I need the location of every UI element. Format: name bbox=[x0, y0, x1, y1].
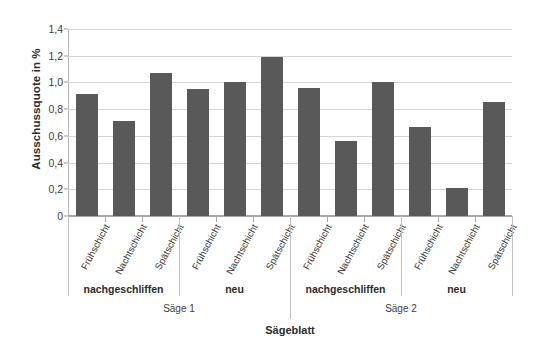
category-label: Frühschicht bbox=[411, 222, 444, 271]
category-label: Spätschicht bbox=[374, 222, 407, 272]
bar bbox=[372, 82, 394, 216]
bar-chart: Ausschussquote in % 1,41,21,00,80,60,40,… bbox=[0, 0, 543, 347]
category-label: Spätschicht bbox=[485, 222, 518, 272]
plot-area: 1,41,21,00,80,60,40,20 bbox=[68, 29, 512, 216]
category-label: Frühschicht bbox=[189, 222, 222, 271]
group-label-machine: Säge 2 bbox=[290, 303, 512, 314]
y-axis-title: Ausschussquote in % bbox=[30, 14, 42, 204]
category-label: Frühschicht bbox=[300, 222, 333, 271]
bars-layer bbox=[68, 29, 512, 216]
group-label-treatment: nachgeschliffen bbox=[290, 283, 401, 295]
bar bbox=[76, 94, 98, 216]
y-tick-label: 1,2 bbox=[48, 50, 63, 62]
y-tick-label: 0,6 bbox=[48, 130, 63, 142]
bar bbox=[335, 141, 357, 216]
y-tick-label: 0,2 bbox=[48, 183, 63, 195]
group-label-machine: Säge 1 bbox=[68, 303, 290, 314]
bar bbox=[298, 88, 320, 216]
bar bbox=[113, 121, 135, 216]
group-label-treatment: neu bbox=[401, 283, 512, 295]
category-label: Nachtschicht bbox=[335, 222, 371, 276]
group-boundary bbox=[68, 216, 69, 296]
group-separator-treatment bbox=[179, 216, 180, 296]
group-boundary bbox=[512, 216, 513, 296]
bar bbox=[261, 57, 283, 216]
group-label-treatment: nachgeschliffen bbox=[68, 283, 179, 295]
x-axis-title: Sägeblatt bbox=[68, 324, 512, 336]
bar bbox=[150, 73, 172, 216]
bar bbox=[483, 102, 505, 216]
bar bbox=[224, 82, 246, 216]
y-tick-label: 0 bbox=[57, 210, 63, 222]
y-tick-label: 0,4 bbox=[48, 157, 63, 169]
bar bbox=[409, 127, 431, 216]
y-tick-label: 0,8 bbox=[48, 103, 63, 115]
category-label: Spätschicht bbox=[152, 222, 185, 272]
bar bbox=[187, 89, 209, 216]
category-label: Nachtschicht bbox=[446, 222, 482, 276]
category-label: Spätschicht bbox=[263, 222, 296, 272]
category-label: Nachtschicht bbox=[224, 222, 260, 276]
y-tick-label: 1,4 bbox=[48, 23, 63, 35]
bar bbox=[446, 188, 468, 216]
category-label: Frühschicht bbox=[78, 222, 111, 271]
group-separator-treatment bbox=[401, 216, 402, 296]
group-label-treatment: neu bbox=[179, 283, 290, 295]
category-label: Nachtschicht bbox=[113, 222, 149, 276]
y-tick-label: 1,0 bbox=[48, 76, 63, 88]
group-separator-machine bbox=[290, 216, 291, 319]
